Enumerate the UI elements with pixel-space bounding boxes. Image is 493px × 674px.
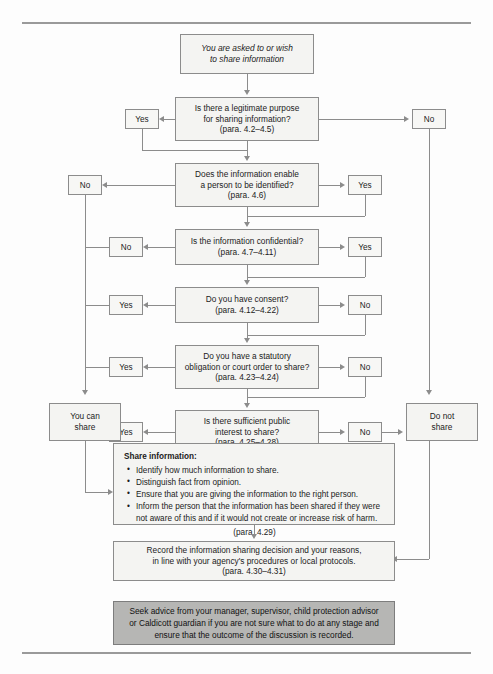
d2-para: (para. 4.6) — [179, 190, 315, 201]
d5-line-2: obligation or court order to share? — [179, 362, 315, 373]
arrowhead-d2-to-no — [102, 182, 107, 188]
left-rail-vertical — [85, 195, 86, 391]
record-line-2: in line with your agency's procedures or… — [117, 556, 391, 567]
label-d3-yes: Yes — [348, 237, 382, 257]
label-d1-no: No — [412, 109, 446, 129]
arrowhead-d6-to-no — [340, 429, 345, 435]
start-line-2: to share information — [184, 54, 310, 65]
arrowhead-d5-to-yes — [143, 364, 148, 370]
arrowhead-d6-to-yes — [143, 429, 148, 435]
d5-para: (para. 4.23–4.24) — [179, 372, 315, 383]
label-d2-yes-text: Yes — [358, 181, 371, 190]
arrowhead-share-info-to-record — [251, 534, 257, 539]
connector-d3-yes-return — [247, 277, 365, 278]
advisory-box: Seek advice from your manager, superviso… — [113, 601, 395, 645]
do-not-share-line-1: Do not — [410, 411, 474, 422]
d1-para: (para. 4.2–4.5) — [179, 124, 315, 135]
label-d1-no-text: No — [424, 115, 434, 124]
decision-statutory-obligation: Do you have a statutory obligation or co… — [175, 345, 319, 389]
arrowhead-d5-to-no — [340, 364, 345, 370]
connector-d2-yes-drop — [365, 195, 366, 216]
connector-d4-no-return — [247, 335, 365, 336]
d2-line-2: a person to be identified? — [179, 180, 315, 191]
decision-information-confidential: Is the information confidential? (para. … — [175, 229, 319, 265]
label-d5-no: No — [348, 357, 382, 377]
arrowhead-d2-to-d3 — [244, 222, 250, 227]
decision-have-consent: Do you have consent? (para. 4.12–4.22) — [175, 287, 319, 323]
connector-d1-to-yes — [164, 119, 175, 120]
d1-line-1: Is there a legitimate purpose — [179, 103, 315, 114]
arrowhead-d4-to-no — [340, 302, 345, 308]
d3-para: (para. 4.7–4.11) — [179, 247, 315, 258]
label-d1-yes: Yes — [125, 109, 159, 129]
connector-d1-to-no — [319, 119, 405, 120]
connector-d5-to-no — [319, 367, 341, 368]
connector-can-share-drop — [85, 441, 86, 492]
connector-d4-no-drop — [365, 315, 366, 335]
connector-d5-no-drop — [365, 377, 366, 397]
arrowhead-d5-to-d6 — [244, 403, 250, 408]
arrowhead-d3-to-yes — [340, 244, 345, 250]
connector-d1-yes-drop — [142, 129, 143, 150]
label-d5-yes-text: Yes — [119, 363, 132, 372]
connector-d5-no-return — [247, 397, 365, 398]
can-share-line-1: You can — [53, 411, 117, 422]
d4-line-1: Do you have consent? — [179, 294, 315, 305]
connector-d2-to-yes — [319, 185, 341, 186]
connector-d4-to-no — [319, 305, 341, 306]
connector-d6-to-yes — [148, 432, 175, 433]
connector-d3-no-to-rail — [85, 247, 109, 248]
connector-no-to-do-not-share — [382, 432, 399, 433]
d5-line-1: Do you have a statutory — [179, 351, 315, 362]
label-d2-yes: Yes — [348, 175, 382, 195]
arrowhead-d2-to-yes — [340, 182, 345, 188]
label-d6-no-text: No — [360, 428, 370, 437]
connector-do-not-share-drop — [429, 441, 430, 559]
arrowhead-left-rail-to-can-share — [82, 390, 88, 395]
arrowhead-d1-to-d2 — [244, 156, 250, 161]
decision-legitimate-purpose: Is there a legitimate purpose for sharin… — [175, 97, 319, 141]
flowchart-page: You are asked to or wish to share inform… — [0, 0, 493, 674]
label-d2-no: No — [68, 175, 102, 195]
label-d4-no-text: No — [360, 301, 370, 310]
arrowhead-d1-to-no — [404, 116, 409, 122]
record-decision-box: Record the information sharing decision … — [113, 541, 395, 581]
label-d1-yes-text: Yes — [135, 115, 148, 124]
connector-d2-yes-return — [247, 216, 365, 217]
label-d3-no-text: No — [121, 243, 131, 252]
share-info-bullet: Inform the person that the information h… — [135, 501, 385, 524]
connector-do-not-share-to-record — [397, 559, 429, 560]
label-d2-no-text: No — [80, 181, 90, 190]
start-line-1: You are asked to or wish — [184, 43, 310, 54]
label-d5-no-text: No — [360, 363, 370, 372]
label-d6-no: No — [348, 422, 382, 442]
label-d5-yes: Yes — [109, 357, 143, 377]
connector-d4-to-yes — [148, 305, 175, 306]
advisory-line-1: Seek advice from your manager, superviso… — [129, 606, 349, 616]
connector-d3-to-yes — [319, 247, 341, 248]
connector-d6-to-no — [319, 432, 341, 433]
share-info-heading: Share information: — [124, 451, 385, 463]
connector-d5-yes-to-rail — [85, 367, 109, 368]
share-info-bullet: Identify how much information to share. — [135, 465, 385, 477]
right-rail-vertical — [429, 129, 430, 391]
arrowhead-d3-to-d4 — [244, 280, 250, 285]
connector-d3-yes-drop — [365, 257, 366, 277]
connector-d5-to-yes — [148, 367, 175, 368]
arrowhead-d3-to-no — [143, 244, 148, 250]
do-not-share-line-2: share — [410, 422, 474, 433]
can-share-line-2: share — [53, 422, 117, 433]
label-d4-no: No — [348, 295, 382, 315]
arrowhead-d4-to-d5 — [244, 338, 250, 343]
record-line-1: Record the information sharing decision … — [117, 545, 391, 556]
arrowhead-d4-to-yes — [143, 302, 148, 308]
d6-line-1: Is there sufficient public — [179, 416, 315, 427]
decision-person-identified: Does the information enable a person to … — [175, 163, 319, 207]
label-d4-yes-text: Yes — [119, 301, 132, 310]
d4-para: (para. 4.12–4.22) — [179, 305, 315, 316]
bottom-divider-rule — [22, 652, 471, 654]
label-d3-no: No — [109, 237, 143, 257]
outcome-do-not-share: Do not share — [406, 403, 478, 441]
connector-d2-to-no — [107, 185, 175, 186]
connector-can-share-to-share-info — [85, 492, 109, 493]
